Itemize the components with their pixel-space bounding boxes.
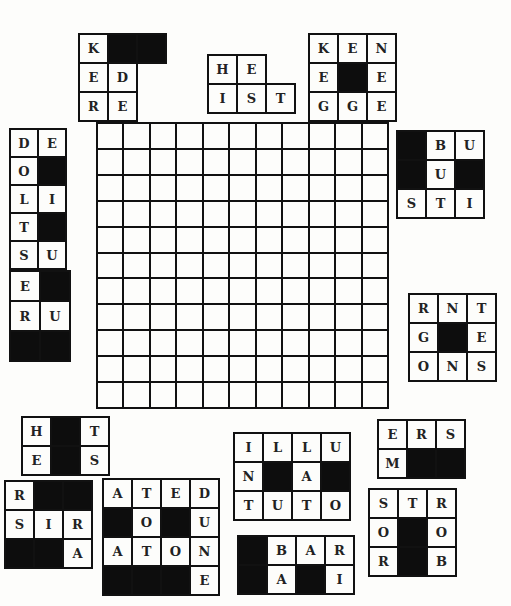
grid-cell[interactable] xyxy=(124,228,148,252)
grid-cell[interactable] xyxy=(124,331,148,355)
grid-cell[interactable] xyxy=(257,124,281,148)
puzzle-piece-p11[interactable]: RSIRA xyxy=(4,480,93,569)
grid-cell[interactable] xyxy=(124,202,148,226)
puzzle-piece-p1[interactable]: KEDRE xyxy=(79,34,166,121)
grid-cell[interactable] xyxy=(283,124,307,148)
puzzle-piece-p5[interactable]: BUUSTI xyxy=(396,130,485,219)
puzzle-piece-p2[interactable]: HEIST xyxy=(208,55,295,113)
grid-cell[interactable] xyxy=(310,176,334,200)
grid-cell[interactable] xyxy=(283,228,307,252)
grid-cell[interactable] xyxy=(151,202,175,226)
grid-cell[interactable] xyxy=(230,176,254,200)
grid-cell[interactable] xyxy=(363,202,387,226)
grid-cell[interactable] xyxy=(98,228,122,252)
grid-cell[interactable] xyxy=(230,254,254,278)
grid-cell[interactable] xyxy=(283,331,307,355)
grid-cell[interactable] xyxy=(257,202,281,226)
grid-cell[interactable] xyxy=(204,202,228,226)
grid-cell[interactable] xyxy=(310,383,334,407)
grid-cell[interactable] xyxy=(98,279,122,303)
grid-cell[interactable] xyxy=(177,228,201,252)
grid-cell[interactable] xyxy=(257,254,281,278)
grid-cell[interactable] xyxy=(257,228,281,252)
grid-cell[interactable] xyxy=(98,383,122,407)
grid-cell[interactable] xyxy=(336,176,360,200)
grid-cell[interactable] xyxy=(124,176,148,200)
grid-cell[interactable] xyxy=(283,357,307,381)
grid-cell[interactable] xyxy=(151,254,175,278)
grid-cell[interactable] xyxy=(177,331,201,355)
grid-cell[interactable] xyxy=(98,254,122,278)
grid-cell[interactable] xyxy=(363,150,387,174)
puzzle-piece-p7[interactable]: RNTGEONS xyxy=(408,293,497,382)
grid-cell[interactable] xyxy=(177,305,201,329)
puzzle-piece-p13[interactable]: BARAI xyxy=(237,535,355,595)
grid-cell[interactable] xyxy=(230,124,254,148)
grid-cell[interactable] xyxy=(98,357,122,381)
grid-cell[interactable] xyxy=(204,331,228,355)
grid-cell[interactable] xyxy=(230,331,254,355)
grid-cell[interactable] xyxy=(204,124,228,148)
grid-cell[interactable] xyxy=(204,150,228,174)
grid-cell[interactable] xyxy=(336,331,360,355)
grid-cell[interactable] xyxy=(283,279,307,303)
grid-cell[interactable] xyxy=(336,357,360,381)
grid-cell[interactable] xyxy=(98,124,122,148)
grid-cell[interactable] xyxy=(257,383,281,407)
grid-cell[interactable] xyxy=(283,254,307,278)
grid-cell[interactable] xyxy=(204,279,228,303)
grid-cell[interactable] xyxy=(363,176,387,200)
grid-cell[interactable] xyxy=(98,150,122,174)
grid-cell[interactable] xyxy=(257,305,281,329)
grid-cell[interactable] xyxy=(151,124,175,148)
grid-cell[interactable] xyxy=(151,357,175,381)
grid-cell[interactable] xyxy=(310,202,334,226)
puzzle-piece-p10[interactable]: ERSM xyxy=(377,419,466,479)
grid-cell[interactable] xyxy=(230,228,254,252)
grid-cell[interactable] xyxy=(257,150,281,174)
grid-cell[interactable] xyxy=(98,331,122,355)
grid-cell[interactable] xyxy=(310,279,334,303)
grid-cell[interactable] xyxy=(204,357,228,381)
grid-cell[interactable] xyxy=(336,305,360,329)
grid-cell[interactable] xyxy=(124,124,148,148)
puzzle-piece-p3[interactable]: KENEEGGE xyxy=(308,33,397,122)
grid-cell[interactable] xyxy=(177,176,201,200)
grid-cell[interactable] xyxy=(363,383,387,407)
grid-cell[interactable] xyxy=(336,254,360,278)
grid-cell[interactable] xyxy=(230,279,254,303)
grid-cell[interactable] xyxy=(124,383,148,407)
puzzle-piece-p12[interactable]: ATEDOUATONE xyxy=(102,478,220,596)
grid-cell[interactable] xyxy=(230,305,254,329)
grid-cell[interactable] xyxy=(151,331,175,355)
grid-cell[interactable] xyxy=(204,228,228,252)
grid-cell[interactable] xyxy=(310,357,334,381)
grid-cell[interactable] xyxy=(177,202,201,226)
grid-cell[interactable] xyxy=(283,176,307,200)
grid-cell[interactable] xyxy=(230,150,254,174)
grid-cell[interactable] xyxy=(257,279,281,303)
grid-cell[interactable] xyxy=(336,279,360,303)
puzzle-piece-p6[interactable]: ERU xyxy=(9,270,71,362)
grid-cell[interactable] xyxy=(177,357,201,381)
grid-cell[interactable] xyxy=(124,279,148,303)
grid-cell[interactable] xyxy=(204,383,228,407)
grid-cell[interactable] xyxy=(151,279,175,303)
grid-cell[interactable] xyxy=(98,202,122,226)
grid-cell[interactable] xyxy=(310,331,334,355)
grid-cell[interactable] xyxy=(336,228,360,252)
grid-cell[interactable] xyxy=(151,305,175,329)
grid-cell[interactable] xyxy=(204,305,228,329)
grid-cell[interactable] xyxy=(230,383,254,407)
grid-cell[interactable] xyxy=(363,357,387,381)
grid-cell[interactable] xyxy=(336,150,360,174)
grid-cell[interactable] xyxy=(310,254,334,278)
grid-cell[interactable] xyxy=(124,254,148,278)
grid-cell[interactable] xyxy=(363,331,387,355)
grid-cell[interactable] xyxy=(124,357,148,381)
grid-cell[interactable] xyxy=(283,383,307,407)
grid-cell[interactable] xyxy=(230,202,254,226)
grid-cell[interactable] xyxy=(151,150,175,174)
grid-cell[interactable] xyxy=(124,305,148,329)
grid-cell[interactable] xyxy=(363,254,387,278)
